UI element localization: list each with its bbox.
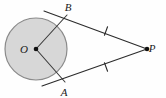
- point-label-B: B: [65, 1, 72, 13]
- diagram-canvas: O B A P: [0, 0, 166, 98]
- geometry-diagram: O B A P: [0, 0, 166, 98]
- center-point-dot: [34, 47, 39, 52]
- point-label-P: P: [148, 42, 156, 54]
- point-label-O: O: [20, 43, 28, 55]
- point-label-A: A: [60, 86, 68, 98]
- congruence-tick-lower-icon: [104, 63, 107, 71]
